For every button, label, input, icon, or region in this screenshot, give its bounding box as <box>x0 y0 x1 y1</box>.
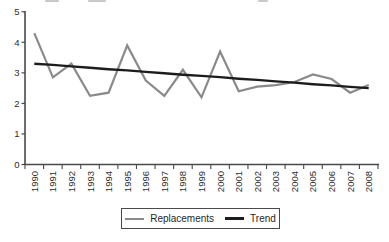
svg-text:5: 5 <box>14 6 19 17</box>
svg-text:2008: 2008 <box>363 171 374 192</box>
svg-text:1998: 1998 <box>177 171 188 192</box>
legend-label-replacements: Replacements <box>150 213 214 224</box>
chart-panel: 0123451990199119921993199419951996199719… <box>0 0 389 242</box>
legend-label-trend: Trend <box>250 213 276 224</box>
svg-text:1995: 1995 <box>122 171 133 192</box>
svg-text:0: 0 <box>14 159 19 170</box>
svg-text:3: 3 <box>14 67 19 78</box>
svg-text:1: 1 <box>14 128 19 139</box>
svg-text:2000: 2000 <box>215 171 226 192</box>
line-chart: 0123451990199119921993199419951996199719… <box>0 0 389 242</box>
svg-text:2001: 2001 <box>233 171 244 192</box>
svg-text:2003: 2003 <box>270 171 281 192</box>
svg-text:4: 4 <box>14 37 19 48</box>
svg-text:2: 2 <box>14 98 19 109</box>
trend-line-swatch <box>225 217 244 220</box>
svg-text:1993: 1993 <box>85 171 96 192</box>
replacements-line-swatch <box>125 218 144 220</box>
svg-text:2005: 2005 <box>307 171 318 192</box>
svg-text:2007: 2007 <box>345 171 356 192</box>
svg-text:1996: 1996 <box>140 171 151 192</box>
svg-text:2004: 2004 <box>289 171 300 192</box>
svg-text:1992: 1992 <box>66 171 77 192</box>
svg-text:1994: 1994 <box>103 171 114 192</box>
legend-item-trend: Trend <box>225 213 276 224</box>
legend-item-replacements: Replacements <box>125 213 214 224</box>
svg-text:2002: 2002 <box>252 171 263 192</box>
svg-text:1997: 1997 <box>159 171 170 192</box>
chart-legend: Replacements Trend <box>121 208 280 229</box>
svg-text:1999: 1999 <box>196 171 207 192</box>
svg-text:1990: 1990 <box>29 171 40 192</box>
svg-text:1991: 1991 <box>47 171 58 192</box>
svg-text:2006: 2006 <box>326 171 337 192</box>
